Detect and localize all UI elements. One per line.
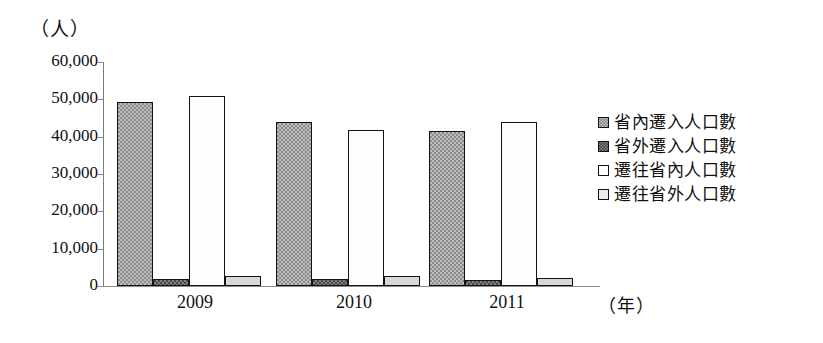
bar-group-2011 bbox=[429, 62, 573, 286]
x-tick-label-2011: 2011 bbox=[457, 292, 557, 313]
x-tick-label-2009: 2009 bbox=[145, 292, 245, 313]
y-axis-tick bbox=[97, 174, 103, 175]
legend-label: 省內遷入人口數 bbox=[614, 113, 737, 132]
y-axis-tick-labels: 60,000 50,000 40,000 30,000 20,000 10,00… bbox=[18, 52, 98, 296]
bar-2011-series-4 bbox=[537, 278, 573, 286]
y-tick-label: 50,000 bbox=[18, 89, 98, 106]
y-tick-label: 20,000 bbox=[18, 201, 98, 218]
legend-swatch-icon bbox=[598, 141, 609, 152]
bar-2011-series-3 bbox=[501, 122, 537, 286]
y-axis-tick bbox=[97, 137, 103, 138]
y-axis-tick bbox=[97, 211, 103, 212]
bar-2010-series-1 bbox=[276, 122, 312, 286]
chart-legend: 省內遷入人口數 省外遷入人口數 遷往省內人口數 遷往省外人口數 bbox=[598, 110, 820, 206]
x-tick-label-2010: 2010 bbox=[304, 292, 404, 313]
bar-2010-series-4 bbox=[384, 276, 420, 286]
y-axis-tick bbox=[97, 99, 103, 100]
legend-swatch-icon bbox=[598, 117, 609, 128]
legend-item: 遷往省外人口數 bbox=[598, 182, 820, 206]
x-axis-line bbox=[100, 286, 600, 287]
y-tick-label: 10,000 bbox=[18, 239, 98, 256]
bar-2009-series-4 bbox=[225, 276, 261, 286]
legend-item: 省內遷入人口數 bbox=[598, 110, 820, 134]
bar-group-2009 bbox=[117, 62, 261, 286]
legend-swatch-icon bbox=[598, 189, 609, 200]
bar-2010-series-3 bbox=[348, 130, 384, 286]
y-axis-tick bbox=[97, 249, 103, 250]
legend-item: 省外遷入人口數 bbox=[598, 134, 820, 158]
legend-label: 遷往省外人口數 bbox=[614, 185, 737, 204]
y-axis-unit-label: （人） bbox=[30, 14, 90, 41]
y-axis-tick bbox=[97, 62, 103, 63]
y-tick-label: 40,000 bbox=[18, 127, 98, 144]
legend-label: 遷往省內人口數 bbox=[614, 161, 737, 180]
legend-label: 省外遷入人口數 bbox=[614, 137, 737, 156]
y-axis-line bbox=[103, 62, 104, 287]
y-axis-tick bbox=[97, 286, 103, 287]
bar-2011-series-2 bbox=[465, 280, 501, 286]
x-axis-unit-label: （年） bbox=[598, 291, 655, 317]
plot-area bbox=[103, 62, 583, 286]
legend-swatch-icon bbox=[598, 165, 609, 176]
bar-2009-series-3 bbox=[189, 96, 225, 286]
legend-item: 遷往省內人口數 bbox=[598, 158, 820, 182]
bar-2011-series-1 bbox=[429, 131, 465, 286]
bar-2009-series-1 bbox=[117, 102, 153, 286]
bar-2010-series-2 bbox=[312, 279, 348, 286]
y-tick-label: 0 bbox=[18, 276, 98, 293]
bar-2009-series-2 bbox=[153, 279, 189, 286]
bar-group-2010 bbox=[276, 62, 420, 286]
y-tick-label: 60,000 bbox=[18, 52, 98, 69]
y-tick-label: 30,000 bbox=[18, 164, 98, 181]
bar-chart: （人） 60,000 50,000 40,000 30,000 20,000 1… bbox=[0, 0, 823, 343]
